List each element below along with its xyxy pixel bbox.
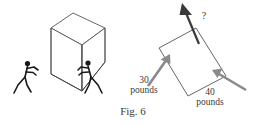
stick-figure-left-arm-lower (26, 72, 36, 75)
stick-figure-right-leg-back (91, 77, 102, 93)
resultant-arrow-head (180, 3, 193, 15)
force-label-30-unit: pounds (130, 85, 157, 95)
stick-figure-left (14, 61, 38, 93)
cube-group (51, 13, 105, 91)
figure-container: 30pounds 40pounds ? Fig. 6 (0, 0, 256, 126)
stick-figure-left-leg-front (25, 77, 31, 92)
figure-caption: Fig. 6 (108, 106, 158, 118)
force-label-30: 30pounds (122, 76, 166, 96)
resultant-label-question: ? (198, 11, 210, 22)
force-label-30-value: 30 (139, 75, 149, 85)
stick-figure-left-head (25, 61, 30, 66)
stick-figure-right-head (85, 60, 90, 65)
force-label-40: 40pounds (186, 88, 234, 108)
force-label-40-value: 40 (205, 87, 215, 97)
force-label-40-unit: pounds (196, 97, 223, 107)
stick-figure-left-arm-upper (27, 67, 38, 70)
stick-figure-left-leg-back (14, 77, 25, 93)
